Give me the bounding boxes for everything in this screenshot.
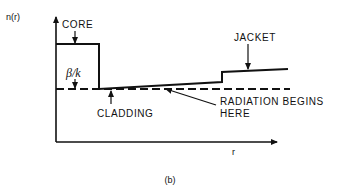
jacket-label: JACKET (234, 32, 276, 43)
radiation-label-line2: HERE (220, 108, 250, 119)
radiation-label-line1: RADIATION BEGINS (220, 96, 324, 107)
index-profile-curve (56, 44, 288, 89)
y-axis-label: n(r) (6, 12, 20, 22)
radiation-arrow (166, 89, 216, 105)
core-label: CORE (62, 19, 93, 30)
threshold-label: β/k (65, 66, 81, 80)
figure-caption: (b) (165, 175, 176, 185)
x-axis-label: r (232, 147, 235, 157)
cladding-label: CLADDING (97, 108, 153, 119)
index-profile-diagram: n(r) r CORE β/k CLADDING JACKET RADIATIO… (0, 0, 338, 196)
